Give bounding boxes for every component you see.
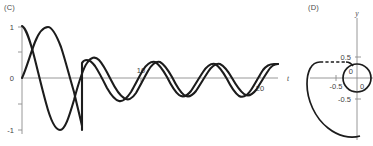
figure-container: (C) 1 0 -1 10 20 t [0, 0, 373, 146]
panel-c-ylabel-neg1: -1 [7, 126, 14, 135]
panel-c-plot: 1 0 -1 10 20 t [0, 0, 300, 146]
panel-c-ylabel-0: 0 [10, 74, 14, 83]
panel-c-ylabel-1: 1 [10, 23, 14, 32]
panel-d-ylabel-neg-half: -0.5 [338, 95, 351, 104]
panel-d-xlabel-neg-half: -0.5 [330, 82, 343, 91]
panel-d-ylabel-half: 0.5 [341, 53, 351, 62]
panel-d-axis-label-y: y [354, 9, 359, 18]
panel-d-plot: 0.5 0 -0.5 -0.5 0 y [300, 0, 373, 146]
panel-c-axis-label-t: t [287, 74, 290, 83]
panel-c: (C) 1 0 -1 10 20 t [0, 0, 300, 146]
panel-d: (D) 0.5 0 -0.5 -0.5 0 y [300, 0, 373, 146]
panel-d-ylabel-zero: 0 [349, 67, 353, 76]
curve-damped-oscillation-2 [22, 27, 278, 130]
